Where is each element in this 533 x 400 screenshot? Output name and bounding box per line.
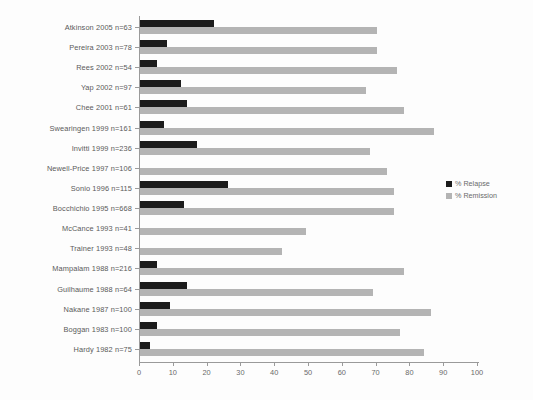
bar-remission bbox=[140, 349, 424, 356]
bar-relapse bbox=[140, 60, 157, 67]
x-axis-tick bbox=[207, 362, 208, 366]
bar-group bbox=[140, 342, 478, 360]
bar-relapse bbox=[140, 282, 187, 289]
bar-group bbox=[140, 100, 478, 118]
category-label: Hardy 1982 n=75 bbox=[74, 345, 132, 354]
x-axis-tick bbox=[409, 362, 410, 366]
legend-swatch-relapse-icon bbox=[446, 181, 452, 187]
y-axis-tick bbox=[135, 289, 139, 290]
x-axis-tick-label: 20 bbox=[202, 368, 210, 377]
bar-group bbox=[140, 201, 478, 219]
category-label: Atkinson 2005 n=63 bbox=[65, 23, 132, 32]
category-label: Sonio 1996 n=115 bbox=[71, 184, 132, 193]
bar-relapse bbox=[140, 141, 197, 148]
plot-area bbox=[140, 18, 478, 360]
bar-relapse bbox=[140, 100, 187, 107]
y-axis-tick bbox=[135, 309, 139, 310]
bar-remission bbox=[140, 309, 431, 316]
bar-relapse bbox=[140, 181, 228, 188]
bar-remission bbox=[140, 128, 434, 135]
y-axis-tick bbox=[135, 248, 139, 249]
bar-group bbox=[140, 60, 478, 78]
bar-group bbox=[140, 282, 478, 300]
y-axis-tick bbox=[135, 208, 139, 209]
y-axis-tick bbox=[135, 329, 139, 330]
category-axis-labels: Atkinson 2005 n=63Pereira 2003 n=78Rees … bbox=[0, 18, 136, 360]
category-label: Mampalam 1988 n=216 bbox=[52, 264, 132, 273]
bar-remission bbox=[140, 289, 373, 296]
bar-group bbox=[140, 302, 478, 320]
y-axis-tick bbox=[135, 148, 139, 149]
category-label: Newell-Price 1997 n=106 bbox=[47, 164, 132, 173]
x-axis-tick bbox=[376, 362, 377, 366]
category-label: Chee 2001 n=61 bbox=[76, 103, 132, 112]
bar-relapse bbox=[140, 201, 184, 208]
x-axis-tick bbox=[139, 362, 140, 366]
y-axis-tick bbox=[135, 107, 139, 108]
chart-container: Atkinson 2005 n=63Pereira 2003 n=78Rees … bbox=[0, 0, 533, 400]
bar-relapse bbox=[140, 261, 157, 268]
category-label: Rees 2002 n=54 bbox=[76, 63, 132, 72]
x-axis-tick-label: 50 bbox=[304, 368, 312, 377]
bar-group bbox=[140, 161, 478, 179]
x-axis-tick bbox=[274, 362, 275, 366]
y-axis-tick bbox=[135, 87, 139, 88]
bar-remission bbox=[140, 27, 377, 34]
x-axis-tick-label: 100 bbox=[471, 368, 483, 377]
bar-remission bbox=[140, 168, 387, 175]
y-axis-tick bbox=[135, 47, 139, 48]
chart-legend: % Relapse % Remission bbox=[446, 179, 497, 203]
x-axis-tick bbox=[240, 362, 241, 366]
y-axis-tick bbox=[135, 168, 139, 169]
bar-remission bbox=[140, 248, 282, 255]
category-label: Yap 2002 n=97 bbox=[81, 83, 132, 92]
x-axis-tick bbox=[477, 362, 478, 366]
bar-relapse bbox=[140, 80, 181, 87]
category-label: Boggan 1983 n=100 bbox=[64, 325, 133, 334]
x-axis-tick bbox=[173, 362, 174, 366]
bar-group bbox=[140, 181, 478, 199]
x-axis-tick-label: 10 bbox=[169, 368, 177, 377]
bar-relapse bbox=[140, 302, 170, 309]
category-label: Invitti 1999 n=236 bbox=[72, 144, 132, 153]
bar-group bbox=[140, 241, 478, 259]
y-axis-tick bbox=[135, 67, 139, 68]
category-label: Trainer 1993 n=48 bbox=[70, 244, 132, 253]
x-axis-tick bbox=[342, 362, 343, 366]
legend-item-remission: % Remission bbox=[446, 191, 497, 200]
y-axis-tick bbox=[135, 349, 139, 350]
bar-remission bbox=[140, 87, 366, 94]
category-label: Nakane 1987 n=100 bbox=[64, 305, 132, 314]
x-axis-tick bbox=[443, 362, 444, 366]
x-axis-tick bbox=[308, 362, 309, 366]
x-axis-tick-label: 0 bbox=[137, 368, 141, 377]
bar-relapse bbox=[140, 322, 157, 329]
category-label: Guilhaume 1988 n=64 bbox=[57, 285, 132, 294]
x-axis-tick-label: 30 bbox=[236, 368, 244, 377]
bar-remission bbox=[140, 268, 404, 275]
bar-relapse bbox=[140, 121, 164, 128]
x-axis-tick-label: 80 bbox=[405, 368, 413, 377]
bar-group bbox=[140, 20, 478, 38]
bar-remission bbox=[140, 107, 404, 114]
bar-group bbox=[140, 141, 478, 159]
bar-group bbox=[140, 322, 478, 340]
category-label: McCance 1993 n=41 bbox=[62, 224, 132, 233]
legend-item-relapse: % Relapse bbox=[446, 179, 497, 188]
bar-remission bbox=[140, 67, 397, 74]
x-axis-tick-label: 60 bbox=[338, 368, 346, 377]
legend-swatch-remission-icon bbox=[446, 193, 452, 199]
bar-remission bbox=[140, 148, 370, 155]
bar-relapse bbox=[140, 40, 167, 47]
y-axis-tick bbox=[135, 27, 139, 28]
y-axis-tick bbox=[135, 128, 139, 129]
bar-remission bbox=[140, 47, 377, 54]
x-axis-line bbox=[139, 362, 479, 363]
y-axis-tick bbox=[135, 228, 139, 229]
bar-remission bbox=[140, 329, 400, 336]
x-axis-tick-label: 90 bbox=[439, 368, 447, 377]
bar-relapse bbox=[140, 342, 150, 349]
bar-group bbox=[140, 40, 478, 58]
bar-relapse bbox=[140, 20, 214, 27]
category-label: Swearingen 1999 n=161 bbox=[50, 124, 132, 133]
